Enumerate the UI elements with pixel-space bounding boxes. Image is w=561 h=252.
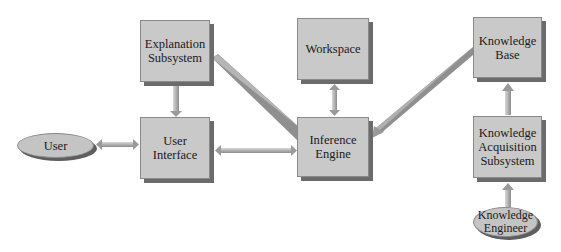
node-inference-engine: Inference Engine	[297, 117, 369, 177]
node-user-interface: User Interface	[140, 117, 210, 179]
node-user: User	[17, 133, 94, 158]
node-workspace: Workspace	[297, 18, 369, 80]
edge-knowledge-base-to-inference-engine	[372, 47, 473, 138]
node-explanation-subsystem: Explanation Subsystem	[140, 20, 210, 82]
node-knowledge-base: Knowledge Base	[473, 17, 542, 78]
edge-workspace-inference-engine	[329, 84, 340, 116]
node-label: Explanation Subsystem	[145, 37, 205, 65]
node-knowledge-engineer: Knowledge Engineer	[473, 207, 538, 237]
edge-knowledge-engineer-to-knowledge-acquisition	[502, 183, 514, 207]
expert-system-architecture-diagram: Explanation Subsystem Workspace Knowledg…	[0, 0, 561, 252]
edge-user-user-interface	[96, 139, 139, 150]
edge-explanation-inference-engine	[212, 54, 300, 140]
edge-explanation-to-user-interface	[170, 86, 182, 117]
node-label: User Interface	[153, 134, 197, 162]
node-label: User	[44, 139, 68, 153]
node-knowledge-acquisition-subsystem: Knowledge Acquisition Subsystem	[473, 116, 542, 178]
node-label: Knowledge Engineer	[478, 209, 533, 235]
edge-knowledge-acquisition-to-knowledge-base	[502, 83, 514, 115]
node-label: Inference Engine	[309, 133, 356, 161]
edge-user-interface-inference-engine	[215, 145, 297, 156]
node-label: Knowledge Base	[479, 34, 537, 62]
node-label: Knowledge Acquisition Subsystem	[478, 126, 536, 168]
node-label: Workspace	[305, 42, 360, 56]
